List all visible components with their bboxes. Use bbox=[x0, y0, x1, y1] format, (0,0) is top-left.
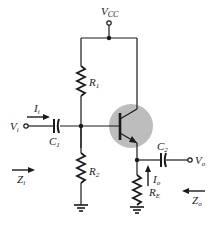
junction-dot bbox=[107, 36, 110, 39]
ground-symbol-r2 bbox=[74, 205, 88, 211]
r2-label: R2 bbox=[88, 165, 100, 179]
resistor-r2 bbox=[77, 126, 85, 205]
vcc-terminal bbox=[107, 21, 111, 38]
c1-label: C1 bbox=[49, 135, 60, 149]
c2-label: C2 bbox=[157, 140, 168, 154]
capacitor-c2 bbox=[161, 153, 166, 167]
capacitor-c1 bbox=[54, 119, 59, 133]
r1-label: R1 bbox=[88, 76, 99, 90]
input-wire bbox=[24, 124, 120, 128]
vi-label: Vi bbox=[10, 120, 19, 134]
vcc-label: VCC bbox=[101, 5, 119, 19]
io-label: Io bbox=[152, 173, 161, 187]
zi-label: Zi bbox=[17, 173, 25, 187]
circuit-diagram: VCC R1 R2 RE C1 C2 Vi Vo Ii Io Zi Zo bbox=[0, 0, 211, 225]
zo-label: Zo bbox=[192, 194, 202, 208]
vo-label: Vo bbox=[195, 154, 206, 168]
circuit-schematic: VCC R1 R2 RE C1 C2 Vi Vo Ii Io Zi Zo bbox=[0, 0, 211, 225]
ii-label: Ii bbox=[33, 102, 40, 116]
io-arrow bbox=[145, 165, 151, 186]
ground-symbol-re bbox=[130, 207, 144, 213]
re-label: RE bbox=[148, 186, 161, 200]
zi-arrow bbox=[12, 167, 35, 173]
resistor-re bbox=[133, 160, 141, 205]
